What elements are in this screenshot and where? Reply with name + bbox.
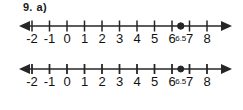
tick-label-1: 1 — [81, 74, 88, 90]
right-arrowhead-icon — [221, 21, 232, 31]
left-arrowhead-icon — [19, 21, 30, 31]
tick-label-1: 1 — [81, 31, 88, 47]
tick-label-6: 6 — [168, 31, 175, 47]
tick-label-7: 7 — [186, 31, 193, 47]
plotted-point-6-5[interactable] — [178, 23, 184, 29]
problem-header: 9.a) — [23, 1, 47, 14]
tick-label-6: 6 — [168, 74, 175, 90]
tick-label-8: 8 — [203, 74, 210, 90]
tick-label-2: 2 — [98, 31, 105, 47]
tick-label-0: 0 — [63, 74, 70, 90]
tick-label-7: 7 — [186, 74, 193, 90]
number-line-2: 6.5 -2 -1 0 1 2 3 4 5 6 7 8 — [0, 58, 243, 98]
number-line-1: 6.5 -2 -1 0 1 2 3 4 5 6 7 8 — [0, 15, 243, 55]
tick-label-5: 5 — [151, 31, 158, 47]
number-line-2-tick-labels: -2 -1 0 1 2 3 4 5 6 7 8 — [0, 74, 243, 94]
plotted-point-6-5[interactable] — [178, 66, 184, 72]
number-line-1-tick-labels: -2 -1 0 1 2 3 4 5 6 7 8 — [0, 31, 243, 51]
tick-label-2: 2 — [98, 74, 105, 90]
tick-label-8: 8 — [203, 31, 210, 47]
tick-label--2: -2 — [26, 74, 38, 90]
tick-label--1: -1 — [44, 74, 56, 90]
tick-label-0: 0 — [63, 31, 70, 47]
worksheet-canvas: 9.a) — [0, 0, 243, 110]
tick-label-3: 3 — [116, 31, 123, 47]
tick-label-5: 5 — [151, 74, 158, 90]
problem-number: 9. — [23, 1, 33, 13]
tick-label--2: -2 — [26, 31, 38, 47]
tick-label-4: 4 — [133, 74, 140, 90]
tick-label--1: -1 — [44, 31, 56, 47]
problem-part-label: a) — [37, 1, 47, 13]
left-arrowhead-icon — [19, 64, 30, 74]
right-arrowhead-icon — [221, 64, 232, 74]
tick-label-4: 4 — [133, 31, 140, 47]
tick-label-3: 3 — [116, 74, 123, 90]
